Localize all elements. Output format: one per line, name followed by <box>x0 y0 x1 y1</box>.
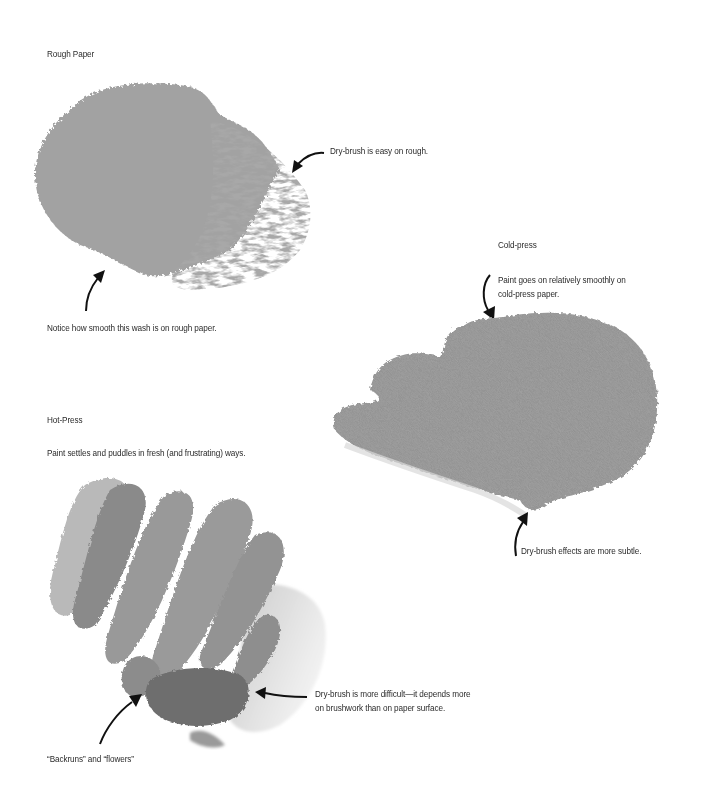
cold-press-swatch <box>325 305 665 520</box>
hot-drybrush-caption-line1: Dry-brush is more difficult—it depends m… <box>315 687 471 700</box>
rough-drybrush-caption: Dry-brush is easy on rough. <box>330 144 428 157</box>
rough-paper-swatch <box>30 80 330 300</box>
curved-arrow-icon <box>80 268 110 313</box>
rough-paper-title: Rough Paper <box>47 47 94 60</box>
curved-arrow-icon <box>96 690 146 745</box>
cold-paint-caption-line2: cold-press paper. <box>498 287 559 300</box>
cold-press-title: Cold-press <box>498 238 537 251</box>
hot-backruns-caption: “Backruns” and “flowers” <box>47 752 134 765</box>
hot-press-title: Hot-Press <box>47 413 83 426</box>
rough-smooth-caption: Notice how smooth this wash is on rough … <box>47 321 217 334</box>
hot-press-swatch <box>40 465 340 755</box>
cold-paint-caption-line1: Paint goes on relatively smoothly on <box>498 273 626 286</box>
curved-arrow-icon <box>286 148 326 178</box>
straight-arrow-icon <box>253 686 308 706</box>
cold-drybrush-caption: Dry-brush effects are more subtle. <box>521 544 641 557</box>
hot-drybrush-caption-line2: on brushwork than on paper surface. <box>315 701 445 714</box>
hot-press-subtitle: Paint settles and puddles in fresh (and … <box>47 446 245 459</box>
